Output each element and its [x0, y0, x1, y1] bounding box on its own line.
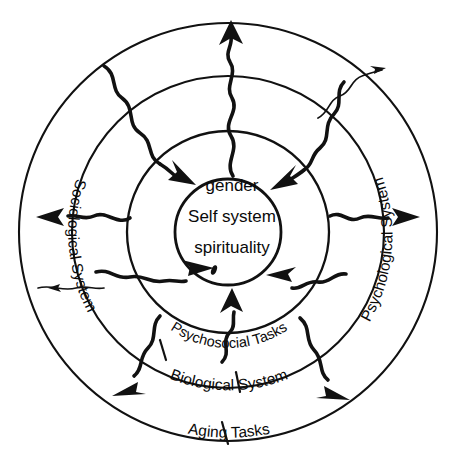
tick-inner-left — [160, 340, 166, 360]
arrow-outward-right — [330, 208, 420, 226]
systems-diagram: gender Self system spirituality Psychoso… — [0, 0, 459, 449]
arrow-inward-right — [266, 267, 346, 288]
core-line-spirituality: spirituality — [194, 238, 270, 257]
core-line-self-system: Self system — [188, 207, 276, 226]
label-aging-tasks: Aging Tasks — [187, 420, 271, 441]
squiggle-left-outer-thin — [38, 284, 104, 292]
core-line-gender: gender — [206, 176, 259, 195]
label-sociological-system: Sociological System — [65, 177, 101, 314]
label-psychological-system: Psychological System — [357, 176, 395, 324]
arrow-outward-bottom-left — [112, 316, 160, 396]
label-biological-system: Biological System — [168, 365, 290, 393]
running-head — [0, 0, 459, 13]
arrow-outward-top — [219, 20, 243, 176]
arrow-inward-left — [96, 260, 214, 282]
core-text-group: gender Self system spirituality — [188, 176, 276, 257]
diagram-canvas: gender Self system spirituality Psychoso… — [0, 0, 459, 449]
arrow-outward-bottom-right — [300, 318, 350, 400]
ink-speck — [210, 264, 219, 275]
arrow-outward-top-right-thin — [318, 66, 386, 118]
